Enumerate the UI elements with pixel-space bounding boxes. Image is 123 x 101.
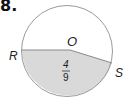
- point-label-s: S: [115, 66, 123, 80]
- point-label-r: R: [9, 49, 18, 63]
- center-label: O: [67, 34, 77, 49]
- fraction-numerator: 4: [63, 59, 69, 70]
- fraction-denominator: 9: [63, 72, 69, 83]
- circle-diagram: O R S 4 9: [0, 0, 123, 101]
